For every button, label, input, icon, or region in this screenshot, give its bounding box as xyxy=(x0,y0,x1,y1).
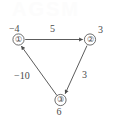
node-value-label-3: 6 xyxy=(57,107,62,117)
node-id-3: ③ xyxy=(55,96,66,104)
node-value-label-1: −4 xyxy=(9,24,19,34)
edge-weight-label-2-3: 3 xyxy=(82,70,87,80)
node-id-2: ② xyxy=(85,36,96,44)
edge-weight-label-1-2: 5 xyxy=(50,24,55,34)
node-value-label-2: 3 xyxy=(98,25,103,35)
graph-figure: AGSM ① ② ③ −4 3 6 5 3 −10 xyxy=(0,0,113,130)
node-id-1: ① xyxy=(13,36,24,44)
edge-weight-label-3-1: −10 xyxy=(14,71,30,81)
